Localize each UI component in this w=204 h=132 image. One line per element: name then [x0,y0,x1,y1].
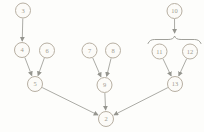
graph-node-3: 3 [16,3,31,18]
edge-5-2 [42,88,98,115]
edge-4-5 [25,57,32,75]
node-label: 12 [187,48,194,55]
node-label: 10 [171,7,178,14]
node-label: 3 [21,7,24,14]
edge-13-2 [114,88,168,115]
edge-6-5 [38,58,44,75]
node-label: 9 [103,81,106,88]
graph-node-8: 8 [106,43,121,58]
node-label: 2 [104,115,107,122]
graph-node-13: 13 [168,77,183,92]
node-label: 13 [172,80,179,87]
graph-node-2: 2 [99,112,114,127]
graph-node-10: 10 [167,4,182,19]
dag-figure: 3467810111259132 [0,0,204,132]
graph-node-4: 4 [15,43,30,58]
edge-11-13 [163,59,171,76]
edge-8-9 [107,58,111,76]
node-label: 8 [111,47,114,54]
graph-node-9: 9 [97,78,112,93]
graph-node-7: 7 [82,43,97,58]
edge-3-4 [22,18,23,41]
edge-9-2 [105,93,106,110]
node-label: 5 [33,80,36,87]
node-label: 11 [156,48,162,55]
edge-7-9 [93,58,101,77]
brace [148,36,201,44]
dag-svg: 3467810111259132 [0,0,204,132]
graph-node-11: 11 [152,44,167,59]
graph-node-5: 5 [28,77,43,92]
graph-node-6: 6 [40,43,55,58]
edge-12-13 [179,59,187,76]
graph-node-12: 12 [183,44,198,59]
